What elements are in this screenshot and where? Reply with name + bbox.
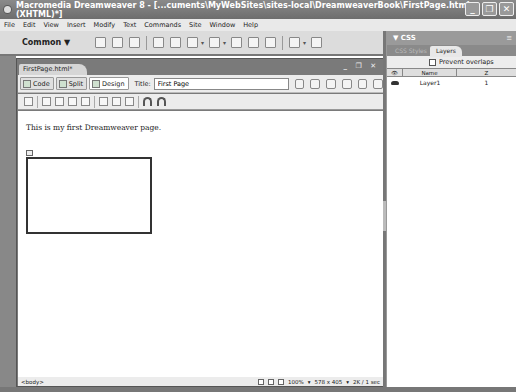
comment-icon[interactable] [265, 37, 276, 48]
date-icon[interactable] [231, 37, 242, 48]
window-title: Macromedia Dreamweaver 8 - [...cuments\M… [16, 1, 516, 19]
copy-icon[interactable] [112, 97, 121, 106]
refresh-icon[interactable] [358, 79, 368, 89]
insert-category-dropdown[interactable]: Common ▼ [22, 38, 92, 47]
menu-help[interactable]: Help [243, 21, 258, 29]
image-icon[interactable] [209, 37, 220, 48]
undo-icon[interactable] [143, 97, 152, 106]
chevron-down-icon[interactable]: ▾ [303, 39, 306, 46]
menu-text[interactable]: Text [123, 21, 136, 29]
code-label: Code [33, 80, 50, 88]
layer-name[interactable]: Layer1 [403, 79, 457, 86]
eye-icon[interactable] [391, 81, 399, 85]
save-all-icon[interactable] [81, 97, 90, 106]
visibility-column-header[interactable]: 👁 [387, 69, 403, 76]
document-tab[interactable]: FirstPage.html* [19, 64, 87, 75]
zoom-tool-icon[interactable] [278, 379, 284, 385]
page-paragraph[interactable]: This is my first Dreamweaver page. [26, 123, 161, 132]
layer-icon[interactable] [187, 37, 198, 48]
document-toolbar: Code Split Design Title: [18, 75, 383, 93]
view-options-icon[interactable] [373, 79, 383, 89]
menu-insert[interactable]: Insert [67, 21, 86, 29]
z-column-header[interactable]: Z [457, 69, 516, 76]
save-icon[interactable] [68, 97, 77, 106]
separator [138, 96, 139, 108]
menu-commands[interactable]: Commands [144, 21, 181, 29]
prevent-overlaps-label: Prevent overlaps [439, 58, 494, 66]
split-view-button[interactable]: Split [56, 77, 87, 90]
menu-file[interactable]: File [4, 21, 15, 29]
css-panel-group: ▼ CSS ≡ CSS Styles Layers Prevent overla… [386, 31, 516, 387]
insert-bar: Common ▼ ▾ ▾ ▾ [0, 31, 383, 56]
templates-icon[interactable] [289, 37, 300, 48]
design-view-button[interactable]: Design [89, 77, 128, 90]
chevron-down-icon[interactable]: ▾ [201, 39, 204, 46]
browse-bridge-icon[interactable] [55, 97, 64, 106]
check-errors-icon[interactable] [326, 79, 336, 89]
prevent-overlaps-row: Prevent overlaps [387, 56, 516, 68]
email-link-icon[interactable] [112, 37, 123, 48]
title-bar: Macromedia Dreamweaver 8 - [...cuments\M… [0, 0, 516, 19]
new-document-icon[interactable] [24, 97, 33, 106]
minimize-button[interactable]: _ [465, 2, 480, 16]
separator [282, 36, 283, 50]
window-bottom-border [0, 387, 516, 392]
window-size[interactable]: 578 x 405 [315, 379, 343, 385]
layer1-box[interactable] [26, 157, 152, 234]
menu-modify[interactable]: Modify [94, 21, 116, 29]
design-canvas[interactable]: This is my first Dreamweaver page. [18, 111, 383, 377]
menu-view[interactable]: View [43, 21, 58, 29]
menu-bar: File Edit View Insert Modify Text Comman… [0, 19, 516, 31]
panel-tabs: CSS Styles Layers [387, 45, 516, 56]
chevron-down-icon[interactable]: ▾ [346, 379, 349, 385]
panel-group-title: ▼ CSS [393, 34, 416, 42]
tab-css-styles[interactable]: CSS Styles [389, 46, 433, 56]
open-icon[interactable] [42, 97, 51, 106]
chevron-down-icon[interactable]: ▾ [308, 379, 311, 385]
menu-site[interactable]: Site [189, 21, 201, 29]
prevent-overlaps-checkbox[interactable] [429, 59, 436, 66]
hand-tool-icon[interactable] [268, 379, 274, 385]
name-column-header[interactable]: Name [403, 69, 457, 76]
server-side-include-icon[interactable] [248, 37, 259, 48]
status-bar: <body> 100% ▾ 578 x 405 ▾ 2K / 1 sec [18, 377, 383, 386]
code-view-button[interactable]: Code [20, 77, 54, 90]
document-window: FirstPage.html* _ ❐ ✕ Code Split Design … [16, 58, 384, 387]
title-label: Title: [135, 80, 151, 88]
named-anchor-icon[interactable] [129, 37, 140, 48]
menu-edit[interactable]: Edit [23, 21, 36, 29]
redo-icon[interactable] [157, 97, 166, 106]
validate-icon[interactable] [342, 79, 352, 89]
panel-options-icon[interactable]: ≡ [506, 34, 512, 42]
layer-z-index[interactable]: 1 [457, 79, 516, 86]
zoom-level[interactable]: 100% [288, 379, 304, 385]
design-label: Design [102, 80, 124, 88]
split-label: Split [69, 80, 83, 88]
standard-toolbar [18, 94, 383, 110]
design-icon [92, 80, 100, 88]
tag-chooser-icon[interactable] [311, 37, 322, 48]
table-icon[interactable] [153, 37, 164, 48]
menu-window[interactable]: Window [210, 21, 236, 29]
hyperlink-icon[interactable] [95, 37, 106, 48]
app-icon [3, 5, 12, 14]
layer-anchor-icon[interactable] [26, 150, 33, 156]
close-button[interactable]: ✕ [499, 2, 514, 16]
preview-browser-icon[interactable] [310, 79, 320, 89]
tag-selector[interactable]: <body> [21, 379, 258, 385]
file-management-icon[interactable] [295, 79, 305, 89]
download-size: 2K / 1 sec [353, 379, 380, 385]
split-icon [59, 80, 67, 88]
tab-layers[interactable]: Layers [430, 46, 462, 57]
paste-icon[interactable] [125, 97, 134, 106]
div-icon[interactable] [170, 37, 181, 48]
workspace-edge [0, 56, 16, 387]
select-tool-icon[interactable] [258, 379, 264, 385]
page-title-input[interactable] [154, 78, 289, 90]
cut-icon[interactable] [99, 97, 108, 106]
chevron-down-icon[interactable]: ▾ [223, 39, 226, 46]
restore-button[interactable]: ❐ [482, 2, 497, 16]
layer-row[interactable]: Layer1 1 [387, 77, 516, 88]
panel-group-header[interactable]: ▼ CSS ≡ [387, 31, 516, 45]
document-window-controls[interactable]: _ ❐ ✕ [343, 62, 379, 70]
